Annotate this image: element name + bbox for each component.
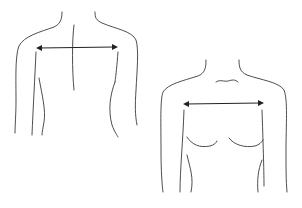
back-view-figure: [15, 12, 138, 137]
back-shoulder-arrow: [36, 44, 118, 51]
front-view-figure: [161, 60, 287, 192]
front-shoulder-arrow: [183, 100, 264, 107]
diagram-canvas: [0, 0, 302, 208]
collarbone: [216, 80, 238, 82]
spine-line: [73, 25, 75, 90]
